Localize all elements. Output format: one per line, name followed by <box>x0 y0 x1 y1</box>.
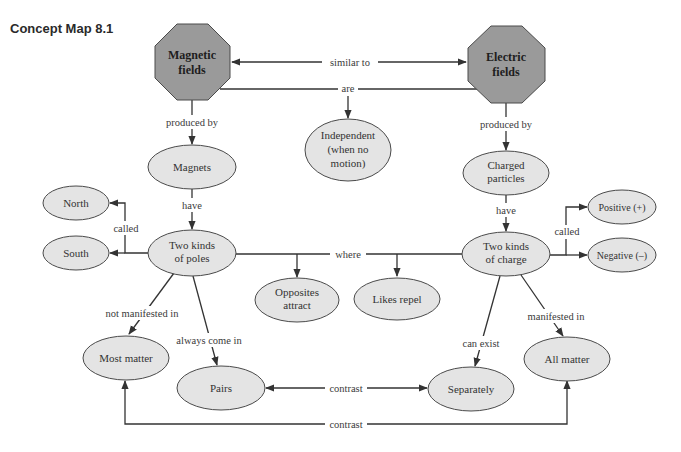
node-negative: Negative (–) <box>588 238 656 272</box>
node-independent: Independent (when no motion) <box>305 119 391 181</box>
node-two-kinds-of-poles: Two kinds of poles <box>148 230 236 276</box>
svg-text:Opposites: Opposites <box>275 286 319 298</box>
svg-text:fields: fields <box>178 63 206 77</box>
svg-text:of charge: of charge <box>485 253 526 265</box>
svg-text:Charged: Charged <box>487 159 525 171</box>
edge-manifested-in <box>521 275 563 336</box>
svg-text:Magnets: Magnets <box>173 161 211 173</box>
svg-text:All matter: All matter <box>545 353 590 365</box>
edge-can-exist <box>475 276 500 366</box>
node-pairs: Pairs <box>177 366 265 410</box>
svg-text:Separately: Separately <box>448 383 495 395</box>
svg-text:Negative (–): Negative (–) <box>597 250 647 262</box>
link-label-called-left: called <box>113 223 139 234</box>
concept-map-diagram: similar to are produced by have called p… <box>0 0 681 452</box>
link-label-produced-by-right: produced by <box>480 119 533 130</box>
node-two-kinds-of-charge: Two kinds of charge <box>462 232 550 276</box>
node-opposites-attract: Opposites attract <box>255 278 339 322</box>
svg-text:Likes repel: Likes repel <box>372 293 421 305</box>
node-north: North <box>43 186 109 220</box>
link-label-are: are <box>342 83 355 94</box>
svg-text:Positive (+): Positive (+) <box>598 202 645 214</box>
link-label-called-right: called <box>554 226 580 237</box>
svg-text:Magnetic: Magnetic <box>168 48 217 62</box>
svg-text:Electric: Electric <box>486 50 527 64</box>
node-magnetic-fields: Magnetic fields <box>155 24 230 100</box>
link-label-can-exist: can exist <box>462 338 499 349</box>
link-label-not-manifested-in: not manifested in <box>106 308 180 319</box>
svg-text:Independent: Independent <box>321 129 375 141</box>
svg-text:South: South <box>63 247 89 259</box>
link-label-manifested-in: manifested in <box>528 311 586 322</box>
link-label-have-right: have <box>496 205 516 216</box>
svg-text:of poles: of poles <box>174 252 209 264</box>
svg-text:North: North <box>63 197 89 209</box>
svg-text:Most matter: Most matter <box>99 352 153 364</box>
svg-text:Two kinds: Two kinds <box>169 239 215 251</box>
svg-text:particles: particles <box>487 172 524 184</box>
edge-always-come-in <box>193 276 217 365</box>
edge-not-manifested-in <box>129 273 174 334</box>
node-charged-particles: Charged particles <box>463 151 549 195</box>
node-south: South <box>43 236 109 270</box>
link-label-contrast-pairs-separately: contrast <box>329 383 362 394</box>
node-separately: Separately <box>428 367 514 411</box>
link-label-always-come-in: always come in <box>176 335 242 346</box>
node-all-matter: All matter <box>524 337 610 381</box>
svg-text:Pairs: Pairs <box>210 382 232 394</box>
svg-text:attract: attract <box>283 299 310 311</box>
link-label-similar-to: similar to <box>330 57 370 68</box>
node-most-matter: Most matter <box>83 336 169 380</box>
link-label-where: where <box>335 249 361 260</box>
svg-text:Two kinds: Two kinds <box>483 240 529 252</box>
link-label-have-left: have <box>182 200 202 211</box>
link-label-produced-by-left: produced by <box>166 117 219 128</box>
svg-text:(when no: (when no <box>327 143 369 156</box>
node-electric-fields: Electric fields <box>468 26 545 103</box>
svg-text:fields: fields <box>492 65 520 79</box>
node-magnets: Magnets <box>148 145 236 189</box>
node-likes-repel: Likes repel <box>354 278 440 320</box>
svg-text:motion): motion) <box>331 157 366 170</box>
node-positive: Positive (+) <box>588 190 656 224</box>
link-label-contrast-most-all: contrast <box>329 419 362 430</box>
